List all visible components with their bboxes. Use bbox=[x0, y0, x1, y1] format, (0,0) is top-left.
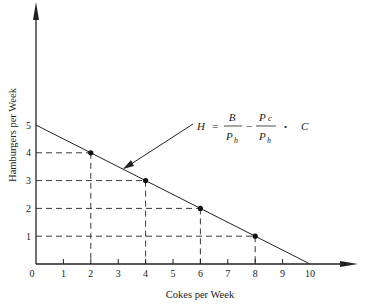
x-tick-label: 8 bbox=[253, 268, 258, 279]
y-axis-title: Hamburgers per Week bbox=[7, 87, 18, 182]
x-tick-label: 4 bbox=[143, 268, 148, 279]
x-tick-label: 1 bbox=[61, 268, 66, 279]
data-point bbox=[143, 178, 148, 183]
y-tick-label: 3 bbox=[26, 175, 31, 186]
formula-annotation: H = B P h − P c P h • C bbox=[196, 111, 309, 145]
budget-line-chart: 012345678910 12345 Cokes per Week Hambur… bbox=[0, 0, 369, 308]
x-axis-title: Cokes per Week bbox=[166, 289, 235, 300]
y-tick-label: 4 bbox=[26, 147, 31, 158]
svg-text:P: P bbox=[258, 130, 266, 142]
x-tick-label: 7 bbox=[225, 268, 230, 279]
budget-line bbox=[36, 125, 310, 264]
annotation-arrow bbox=[123, 124, 193, 169]
x-tick-label: 9 bbox=[280, 268, 285, 279]
x-tick-label: 3 bbox=[116, 268, 121, 279]
axes bbox=[33, 2, 358, 267]
svg-text:B: B bbox=[229, 111, 236, 123]
x-tick-label: 10 bbox=[305, 268, 315, 279]
data-point bbox=[88, 150, 93, 155]
y-tick-label: 1 bbox=[26, 231, 31, 242]
y-tick-label: 5 bbox=[26, 120, 31, 131]
x-axis-ticks: 012345678910 bbox=[30, 259, 316, 279]
y-axis-ticks: 12345 bbox=[26, 120, 31, 242]
y-tick-label: 2 bbox=[26, 203, 31, 214]
dashed-guide-lines bbox=[36, 153, 255, 264]
svg-text:H: H bbox=[196, 120, 206, 132]
y-axis-arrow-icon bbox=[33, 2, 39, 20]
svg-text:c: c bbox=[268, 113, 272, 123]
svg-text:h: h bbox=[267, 136, 271, 145]
budget-line-segment bbox=[36, 125, 310, 264]
x-tick-label: 0 bbox=[30, 268, 35, 279]
svg-text:=: = bbox=[212, 120, 218, 132]
svg-text:−: − bbox=[246, 120, 252, 132]
svg-text:C: C bbox=[301, 120, 309, 132]
x-tick-label: 2 bbox=[88, 268, 93, 279]
x-tick-label: 6 bbox=[198, 268, 203, 279]
x-axis-arrow-icon bbox=[340, 261, 358, 267]
svg-text:•: • bbox=[284, 122, 287, 132]
svg-text:P: P bbox=[258, 111, 266, 123]
svg-text:h: h bbox=[234, 136, 238, 145]
data-point bbox=[198, 206, 203, 211]
arrow-head-icon bbox=[123, 160, 134, 169]
x-tick-label: 5 bbox=[171, 268, 176, 279]
svg-text:P: P bbox=[225, 130, 233, 142]
data-point bbox=[253, 234, 258, 239]
